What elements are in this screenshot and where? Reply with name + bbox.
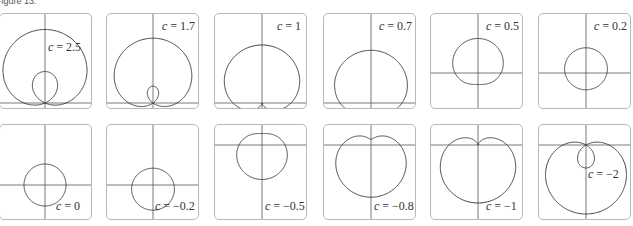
- c-value-label: c = −1: [486, 199, 517, 214]
- plot-panel: c = −0.5: [214, 124, 307, 220]
- plot-panel: c = −0.2: [106, 124, 199, 220]
- polar-plot: [0, 14, 92, 109]
- plot-panel: c = 0: [0, 124, 92, 220]
- plot-panel: c = −2: [538, 124, 631, 220]
- plot-panel: c = 2.5: [0, 13, 92, 109]
- c-value-label: c = −0.2: [155, 199, 195, 214]
- c-value-label: c = −2: [588, 167, 619, 182]
- c-value-label: c = 1: [277, 19, 301, 34]
- c-value-label: c = 1.7: [162, 19, 195, 34]
- c-value-label: c = −0.5: [265, 199, 305, 214]
- c-value-label: c = 0: [56, 199, 80, 214]
- figure-caption: Figure 13.: [0, 0, 37, 6]
- c-value-label: c = 0.7: [379, 19, 412, 34]
- plot-panel: c = 0.2: [538, 13, 631, 109]
- plot-panel: c = 0.7: [323, 13, 416, 109]
- c-value-label: c = 0.5: [486, 19, 519, 34]
- c-value-label: c = −0.8: [374, 199, 414, 214]
- plot-panel: c = 1: [214, 13, 307, 109]
- c-value-label: c = 2.5: [48, 40, 81, 55]
- plot-panel: c = 1.7: [106, 13, 199, 109]
- plot-panel: c = −1: [430, 124, 523, 220]
- plot-panel: c = −0.8: [323, 124, 416, 220]
- plot-panel: c = 0.5: [430, 13, 523, 109]
- c-value-label: c = 0.2: [594, 19, 627, 34]
